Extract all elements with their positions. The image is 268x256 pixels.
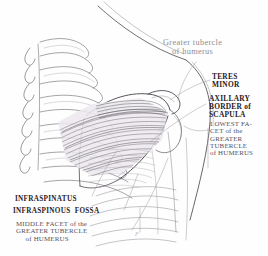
- anatomical-illustration: Greater tubercle of humerus TERES MINOR …: [0, 0, 268, 256]
- label-infraspinous-fossa: INFRASPINOUS FOSSA: [13, 208, 99, 216]
- label-axillary-border-of-scapula: AXILLARY BORDER of SCAPULA: [209, 95, 251, 118]
- label-greater-tubercle-of-humerus: Greater tubercle of humerus: [163, 39, 222, 56]
- label-middle-facet-of-greater-tubercle: MIDDLE FACET of the GREATER TUBERCLE of …: [16, 220, 87, 242]
- label-lowest-facet-of-greater-tubercle: LOWEST FA- CET of the GREATER TUBERCLE o…: [210, 120, 253, 156]
- label-infraspinatus: INFRASPINATUS: [15, 196, 77, 204]
- artist-signature: F: [135, 231, 139, 237]
- label-teres-minor: TERES MINOR: [212, 73, 240, 89]
